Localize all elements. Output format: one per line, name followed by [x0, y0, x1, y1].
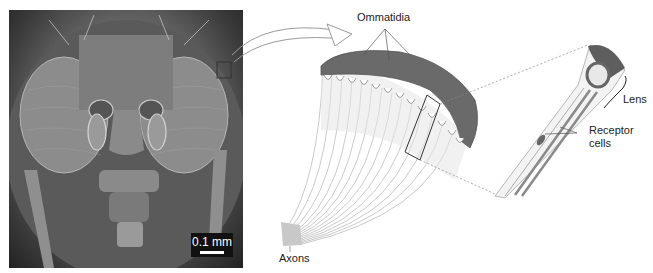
label-ommatidia: Ommatidia [357, 11, 410, 23]
curved-arrow-icon [232, 24, 352, 62]
label-receptor-line2: cells [589, 137, 611, 149]
label-receptor-line1: Receptor [589, 124, 634, 136]
single-ommatidium [495, 45, 625, 198]
ommatidia-diagram [0, 0, 653, 273]
label-axons: Axons [279, 252, 310, 264]
label-receptor-cells: Receptor cells [589, 124, 634, 150]
label-lens: Lens [623, 93, 647, 105]
